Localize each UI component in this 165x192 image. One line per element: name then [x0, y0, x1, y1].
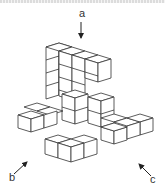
cubes — [18, 43, 153, 162]
arrow-b-icon — [14, 162, 27, 174]
cube-structure — [0, 0, 165, 192]
view-label-a: a — [79, 8, 85, 19]
view-label-c: c — [150, 174, 156, 185]
view-label-b: b — [9, 172, 15, 183]
